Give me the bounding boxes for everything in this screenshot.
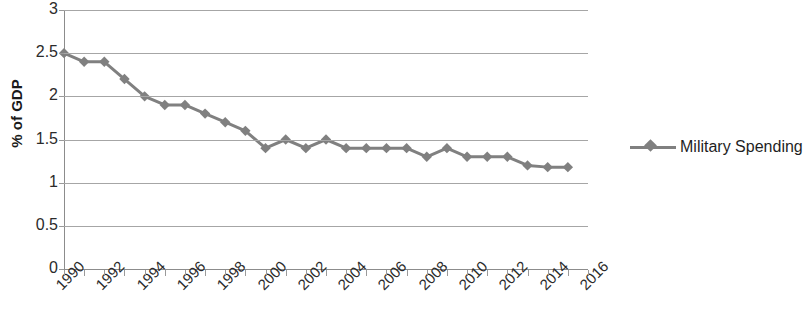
x-axis-tick-mark bbox=[528, 270, 529, 276]
x-axis-tick-mark bbox=[507, 270, 508, 276]
x-axis-tick-label: 1990 bbox=[52, 257, 88, 293]
x-axis-tick-label: 2016 bbox=[576, 257, 612, 293]
x-axis-tick-mark bbox=[407, 270, 408, 276]
x-axis-tick-mark bbox=[266, 270, 267, 276]
x-axis-tick-mark bbox=[467, 270, 468, 276]
x-axis-tick-mark bbox=[346, 270, 347, 276]
x-axis-tick-label: 2012 bbox=[495, 257, 531, 293]
x-axis-tick-label: 2014 bbox=[536, 257, 572, 293]
x-axis-tick-mark bbox=[286, 270, 287, 276]
y-axis-tick-mark bbox=[59, 53, 64, 54]
legend-line-diamond-icon bbox=[630, 140, 676, 154]
x-axis-tick-mark bbox=[548, 270, 549, 276]
chart-legend: Military Spending bbox=[630, 138, 803, 156]
legend-item-label: Military Spending bbox=[680, 138, 803, 156]
x-axis-tick-mark bbox=[447, 270, 448, 276]
x-axis-tick-labels: 1990199219941996199820002002200420062008… bbox=[0, 0, 810, 326]
y-axis-tick-mark bbox=[59, 10, 64, 11]
y-axis-tick-mark bbox=[59, 140, 64, 141]
x-axis-tick-label: 1996 bbox=[173, 257, 209, 293]
y-axis-tick-mark bbox=[59, 183, 64, 184]
x-axis-tick-mark bbox=[64, 270, 65, 276]
x-axis-tick-mark bbox=[225, 270, 226, 276]
x-axis-tick-label: 2002 bbox=[294, 257, 330, 293]
x-axis-tick-label: 2010 bbox=[455, 257, 491, 293]
x-axis-tick-mark bbox=[185, 270, 186, 276]
military-spending-line-chart: % of GDP 00.511.522.53 19901992199419961… bbox=[0, 0, 810, 326]
x-axis-tick-label: 1994 bbox=[133, 257, 169, 293]
x-axis-tick-mark bbox=[165, 270, 166, 276]
x-axis-tick-mark bbox=[205, 270, 206, 276]
x-axis-tick-mark bbox=[588, 270, 589, 276]
x-axis-tick-label: 2006 bbox=[374, 257, 410, 293]
x-axis-tick-label: 1998 bbox=[213, 257, 249, 293]
x-axis-tick-label: 2008 bbox=[415, 257, 451, 293]
y-axis-tick-mark bbox=[59, 96, 64, 97]
x-axis-tick-mark bbox=[245, 270, 246, 276]
x-axis-tick-mark bbox=[124, 270, 125, 276]
x-axis-tick-mark bbox=[104, 270, 105, 276]
x-axis-tick-mark bbox=[326, 270, 327, 276]
x-axis-tick-label: 2000 bbox=[254, 257, 290, 293]
x-axis-tick-mark bbox=[568, 270, 569, 276]
x-axis-tick-mark bbox=[487, 270, 488, 276]
x-axis-tick-label: 1992 bbox=[92, 257, 128, 293]
y-axis-tick-mark bbox=[59, 226, 64, 227]
x-axis-tick-mark bbox=[386, 270, 387, 276]
x-axis-tick-mark bbox=[145, 270, 146, 276]
x-axis-tick-mark bbox=[366, 270, 367, 276]
x-axis-tick-mark bbox=[427, 270, 428, 276]
x-axis-tick-label: 2004 bbox=[334, 257, 370, 293]
x-axis-tick-mark bbox=[84, 270, 85, 276]
x-axis-tick-mark bbox=[306, 270, 307, 276]
